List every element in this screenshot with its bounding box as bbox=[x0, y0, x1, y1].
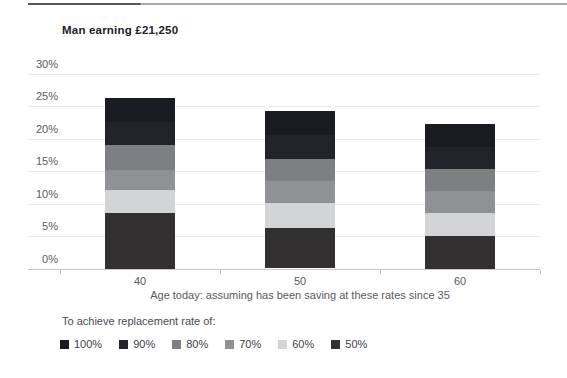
legend-title: To achieve replacement rate of: bbox=[62, 315, 215, 327]
x-axis-tick bbox=[380, 270, 381, 274]
legend-item-90pct: 90% bbox=[119, 338, 155, 350]
y-axis-label: 0% bbox=[18, 253, 58, 266]
bar-segment-50pct-age-60 bbox=[425, 236, 495, 269]
bar-segment-50pct-age-40 bbox=[105, 213, 175, 268]
legend-item-80pct: 80% bbox=[172, 338, 208, 350]
legend-item-50pct: 50% bbox=[331, 338, 367, 350]
x-category-label: 50 bbox=[265, 275, 335, 287]
legend-label: 80% bbox=[186, 338, 208, 350]
x-category-label: 60 bbox=[425, 275, 495, 287]
legend-swatch-icon bbox=[331, 340, 340, 349]
legend-label: 50% bbox=[345, 338, 367, 350]
legend-label: 70% bbox=[239, 338, 261, 350]
y-axis-label: 5% bbox=[18, 220, 58, 233]
y-axis-label: 25% bbox=[18, 90, 58, 103]
legend-label: 100% bbox=[74, 338, 102, 350]
bar-segment-100pct-age-60 bbox=[425, 124, 495, 147]
legend-item-70pct: 70% bbox=[225, 338, 261, 350]
bar-segment-60pct-age-60 bbox=[425, 213, 495, 236]
x-axis-caption: Age today: assuming has been saving at t… bbox=[33, 289, 567, 301]
x-category-label: 40 bbox=[105, 275, 175, 287]
legend: 100%90%80%70%60%50% bbox=[60, 338, 367, 350]
legend-label: 60% bbox=[292, 338, 314, 350]
bar-segment-70pct-age-60 bbox=[425, 191, 495, 212]
bar-segment-100pct-age-40 bbox=[105, 98, 175, 122]
bar-segment-100pct-age-50 bbox=[265, 111, 335, 135]
bar-segment-90pct-age-50 bbox=[265, 135, 335, 158]
x-axis-tick bbox=[220, 270, 221, 274]
legend-swatch-icon bbox=[172, 340, 181, 349]
y-axis-label: 20% bbox=[18, 123, 58, 136]
bar-segment-80pct-age-40 bbox=[105, 145, 175, 170]
bar-segment-70pct-age-50 bbox=[265, 181, 335, 203]
legend-swatch-icon bbox=[60, 340, 69, 349]
legend-item-60pct: 60% bbox=[278, 338, 314, 350]
bar-segment-90pct-age-60 bbox=[425, 147, 495, 169]
bar-segment-60pct-age-50 bbox=[265, 203, 335, 228]
gridline bbox=[28, 74, 540, 75]
bar-segment-90pct-age-40 bbox=[105, 122, 175, 145]
bar-segment-60pct-age-40 bbox=[105, 190, 175, 213]
bar-segment-80pct-age-60 bbox=[425, 169, 495, 191]
bar-segment-70pct-age-40 bbox=[105, 170, 175, 190]
chart-canvas: Man earning £21,250 0%5%10%15%20%25%30%4… bbox=[0, 0, 567, 378]
legend-swatch-icon bbox=[278, 340, 287, 349]
y-axis-label: 10% bbox=[18, 188, 58, 201]
x-axis-tick bbox=[60, 270, 61, 274]
x-axis-line bbox=[28, 269, 540, 270]
bar-segment-80pct-age-50 bbox=[265, 159, 335, 181]
y-axis-label: 30% bbox=[18, 58, 58, 71]
y-axis-label: 15% bbox=[18, 155, 58, 168]
legend-swatch-icon bbox=[225, 340, 234, 349]
x-axis-tick bbox=[540, 270, 541, 274]
legend-item-100pct: 100% bbox=[60, 338, 102, 350]
legend-swatch-icon bbox=[119, 340, 128, 349]
legend-label: 90% bbox=[133, 338, 155, 350]
bar-segment-50pct-age-50 bbox=[265, 228, 335, 269]
